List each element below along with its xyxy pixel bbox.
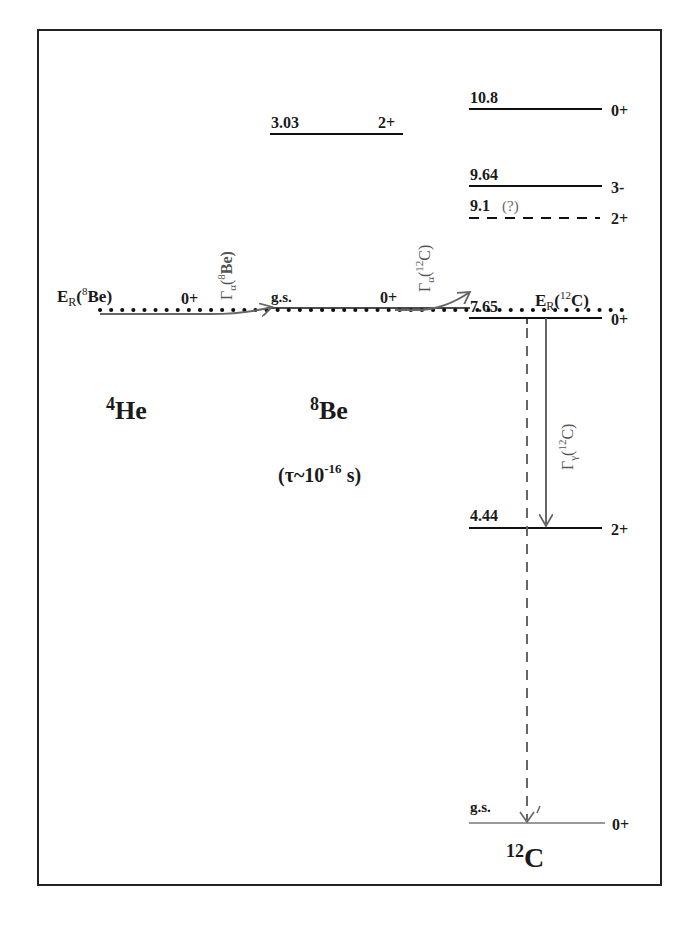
he4-spin: 0+ <box>181 290 198 307</box>
c12-4.44-energy: 4.44 <box>470 507 498 524</box>
c12-gs-spin: 0+ <box>612 816 629 833</box>
svg-text:Γα(12C): Γα(12C) <box>413 245 436 292</box>
c12-9.1-energy: 9.1 <box>470 197 490 214</box>
c12-7.65-energy: 7.65 <box>470 298 498 315</box>
be8-gs-label: g.s. <box>271 289 292 305</box>
be8-3.03-energy: 3.03 <box>271 114 299 131</box>
c12-9.1-uncertain-note: (?) <box>502 198 519 215</box>
c12-nucleus-label: 12C <box>506 841 544 873</box>
be8-3.03-spin: 2+ <box>378 114 395 131</box>
he4-resonance-label: ER(8Be) <box>57 285 112 309</box>
he4-nucleus-label: 4He <box>106 394 147 425</box>
c12-gs-label: g.s. <box>470 799 491 815</box>
c12-10.8-spin: 0+ <box>611 102 628 119</box>
gamma-alpha-be8-label: Γα(8Be) <box>215 251 238 300</box>
gamma-alpha-c12-label: Γα(12C) <box>413 245 436 292</box>
c12-4.44-spin: 2+ <box>611 521 628 538</box>
c12-9.1-spin: 2+ <box>611 210 628 227</box>
c12-resonance-label: ER(12C) <box>535 289 589 313</box>
gamma-gamma-c12-label: Γγ(12C) <box>556 424 579 470</box>
c12-7.65-spin: 0+ <box>611 311 628 328</box>
c12-9.64-energy: 9.64 <box>470 166 498 183</box>
tick-mark <box>537 806 540 813</box>
be8-gs-spin: 0+ <box>380 289 397 306</box>
c12-9.64-spin: 3- <box>611 179 624 196</box>
level-scheme: 3.03 2+ g.s. 0+ ER(8Be) 0+ Γα(8Be) Γα(12… <box>0 0 700 927</box>
c12-10.8-energy: 10.8 <box>470 89 498 106</box>
svg-text:Γγ(12C): Γγ(12C) <box>556 424 579 470</box>
svg-text:Γα(8Be): Γα(8Be) <box>215 251 238 300</box>
be8-lifetime: (τ~10-16 s) <box>278 461 361 487</box>
be8-nucleus-label: 8Be <box>310 394 348 425</box>
